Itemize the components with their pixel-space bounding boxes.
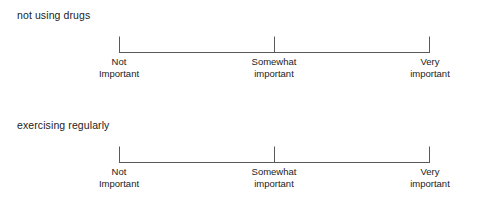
scale-anchor-high: Very important <box>410 166 450 190</box>
scale-anchor-mid: Somewhat important <box>252 56 297 80</box>
survey-scales-sheet: not using drugs Not Important Somewhat i… <box>0 0 485 210</box>
scale-anchor-mid-line2: important <box>252 68 297 80</box>
scale-anchor-high-line2: important <box>410 68 450 80</box>
scale-anchor-low: Not Important <box>99 56 139 80</box>
scale-anchor-labels: Not Important Somewhat important Very im… <box>0 56 485 86</box>
scale-axis-graphic <box>0 146 485 164</box>
scale-axis-graphic <box>0 36 485 54</box>
scale-anchor-high-line1: Very <box>410 56 450 68</box>
scale-item-label: not using drugs <box>17 9 90 22</box>
scale-anchor-low-line1: Not <box>99 166 139 178</box>
scale-anchor-high-line1: Very <box>410 166 450 178</box>
scale-item-label: exercising regularly <box>17 119 109 132</box>
scale-anchor-low-line2: Important <box>99 178 139 190</box>
scale-anchor-mid-line1: Somewhat <box>252 56 297 68</box>
scale-anchor-low-line2: Important <box>99 68 139 80</box>
scale-anchor-mid-line1: Somewhat <box>252 166 297 178</box>
scale-anchor-mid: Somewhat important <box>252 166 297 190</box>
scale-anchor-low: Not Important <box>99 166 139 190</box>
scale-anchor-high: Very important <box>410 56 450 80</box>
scale-anchor-mid-line2: important <box>252 178 297 190</box>
scale-anchor-high-line2: important <box>410 178 450 190</box>
scale-anchor-low-line1: Not <box>99 56 139 68</box>
scale-anchor-labels: Not Important Somewhat important Very im… <box>0 166 485 196</box>
